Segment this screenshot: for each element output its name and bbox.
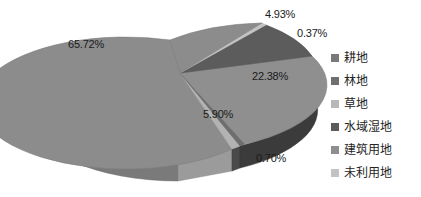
chart-legend: 耕地 林地 草地 水域湿地 建筑用地 未利用地: [331, 46, 417, 184]
legend-label: 耕地: [344, 52, 368, 64]
legend-item-caodi[interactable]: 草地: [331, 92, 417, 115]
label-jianzhuyongdi: 0.70%: [256, 152, 286, 164]
legend-item-gengdi[interactable]: 耕地: [331, 46, 417, 69]
legend-item-shuiyushidi[interactable]: 水域湿地: [331, 115, 417, 138]
legend-swatch-icon: [331, 146, 339, 154]
pie-chart-figure: 65.72% 4.93% 0.37% 22.38% 5.90% 0.70% 耕地…: [0, 0, 421, 197]
legend-label: 林地: [344, 75, 368, 87]
legend-swatch-icon: [331, 169, 339, 177]
legend-swatch-icon: [331, 54, 339, 62]
legend-label: 未利用地: [344, 167, 392, 179]
legend-swatch-icon: [331, 100, 339, 108]
label-weiliyongdi: 0.37%: [297, 27, 327, 39]
legend-item-weiliyongdi[interactable]: 未利用地: [331, 161, 417, 184]
label-shuiyushidi: 4.93%: [265, 8, 295, 20]
legend-swatch-icon: [331, 77, 339, 85]
legend-label: 草地: [344, 98, 368, 110]
legend-swatch-icon: [331, 123, 339, 131]
legend-item-jianzhuyongdi[interactable]: 建筑用地: [331, 138, 417, 161]
sidewall-jianzhuyongdi: [232, 146, 240, 171]
legend-label: 建筑用地: [344, 144, 392, 156]
label-lindi: 22.38%: [252, 70, 288, 82]
legend-label: 水域湿地: [344, 121, 392, 133]
label-caodi: 5.90%: [203, 108, 233, 120]
label-gengdi: 65.72%: [68, 38, 104, 50]
legend-item-lindi[interactable]: 林地: [331, 69, 417, 92]
